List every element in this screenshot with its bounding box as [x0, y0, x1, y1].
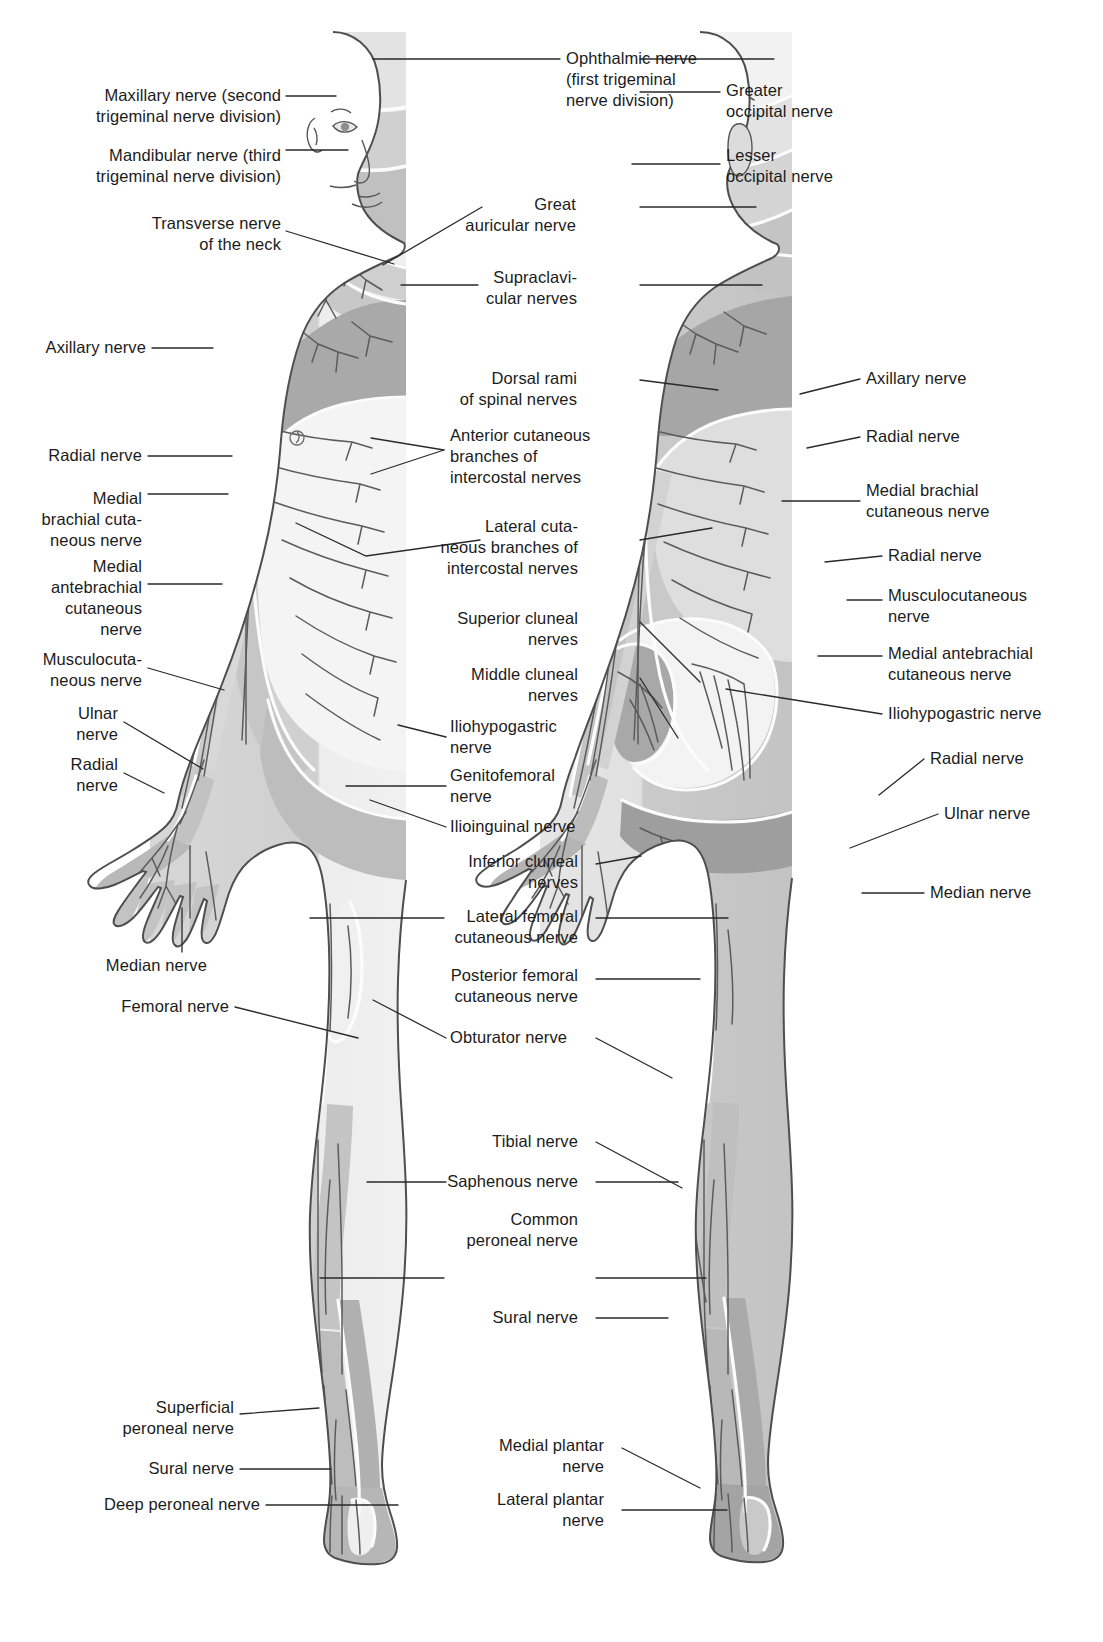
label-posterior-femoral-cutaneous-nerve: Posterior femoral cutaneous nerve [451, 965, 578, 1007]
label-ilioinguinal-nerve: Ilioinguinal nerve [450, 816, 576, 837]
label-inferior-cluneal-nerves: Inferior cluneal nerves [468, 851, 578, 893]
label-superior-cluneal-nerves: Superior cluneal nerves [457, 608, 578, 650]
label-iliohypogastric-nerve-center: Iliohypogastric nerve [450, 716, 557, 758]
label-supraclavicular-nerves: Supraclavi- cular nerves [486, 267, 577, 309]
label-mandibular-nerve: Mandibular nerve (third trigeminal nerve… [96, 145, 281, 187]
label-tibial-nerve: Tibial nerve [492, 1131, 578, 1152]
label-lateral-cutaneous-branches: Lateral cuta- neous branches of intercos… [441, 516, 578, 579]
label-obturator-nerve: Obturator nerve [450, 1027, 567, 1048]
label-medial-brachial-cutaneous-nerve-right: Medial brachial cutaneous nerve [866, 480, 990, 522]
label-axillary-nerve-right: Axillary nerve [866, 368, 966, 389]
label-ophthalmic-nerve: Ophthalmic nerve (first trigeminal nerve… [566, 48, 697, 111]
label-axillary-nerve-left: Axillary nerve [46, 337, 146, 358]
label-radial-nerve-right-upper: Radial nerve [866, 426, 960, 447]
label-radial-nerve-left-upper: Radial nerve [48, 445, 142, 466]
label-iliohypogastric-nerve-right: Iliohypogastric nerve [888, 703, 1041, 724]
label-radial-nerve-right-forearm: Radial nerve [888, 545, 982, 566]
label-common-peroneal-nerve: Common peroneal nerve [467, 1209, 578, 1251]
label-sural-nerve-left: Sural nerve [149, 1458, 234, 1479]
label-lesser-occipital-nerve: Lesser occipital nerve [726, 145, 833, 187]
label-medial-brachial-cutaneous-nerve-left: Medial brachial cuta- neous nerve [42, 488, 142, 551]
label-median-nerve-right: Median nerve [930, 882, 1031, 903]
label-median-nerve-left: Median nerve [106, 955, 207, 976]
label-maxillary-nerve: Maxillary nerve (second trigeminal nerve… [96, 85, 281, 127]
label-saphenous-nerve: Saphenous nerve [447, 1171, 578, 1192]
label-deep-peroneal-nerve: Deep peroneal nerve [104, 1494, 260, 1515]
label-lateral-femoral-cutaneous-nerve: Lateral femoral cutaneous nerve [454, 906, 578, 948]
label-ulnar-nerve-left: Ulnar nerve [76, 703, 118, 745]
label-medial-antebrachial-cutaneous-nerve-left: Medial antebrachial cutaneous nerve [51, 556, 142, 640]
label-superficial-peroneal-nerve: Superficial peroneal nerve [123, 1397, 234, 1439]
label-sural-nerve-center: Sural nerve [493, 1307, 578, 1328]
label-radial-nerve-left-hand: Radial nerve [71, 754, 118, 796]
label-medial-plantar-nerve: Medial plantar nerve [499, 1435, 604, 1477]
label-great-auricular-nerve: Great auricular nerve [465, 194, 576, 236]
label-transverse-nerve-of-the-neck: Transverse nerve of the neck [152, 213, 281, 255]
label-musculocutaneous-nerve-left: Musculocuta- neous nerve [43, 649, 142, 691]
label-anterior-cutaneous-branches: Anterior cutaneous branches of intercost… [450, 425, 590, 488]
label-lateral-plantar-nerve: Lateral plantar nerve [497, 1489, 604, 1531]
label-genitofemoral-nerve: Genitofemoral nerve [450, 765, 555, 807]
label-femoral-nerve-left: Femoral nerve [121, 996, 229, 1017]
nerve-distribution-diagram: Maxillary nerve (second trigeminal nerve… [0, 0, 1103, 1642]
label-ulnar-nerve-right: Ulnar nerve [944, 803, 1030, 824]
label-dorsal-rami-of-spinal-nerves: Dorsal rami of spinal nerves [460, 368, 577, 410]
label-middle-cluneal-nerves: Middle cluneal nerves [471, 664, 578, 706]
label-greater-occipital-nerve: Greater occipital nerve [726, 80, 833, 122]
label-musculocutaneous-nerve-right: Musculocutaneous nerve [888, 585, 1027, 627]
label-radial-nerve-right-hand: Radial nerve [930, 748, 1024, 769]
label-medial-antebrachial-cutaneous-nerve-right: Medial antebrachial cutaneous nerve [888, 643, 1033, 685]
